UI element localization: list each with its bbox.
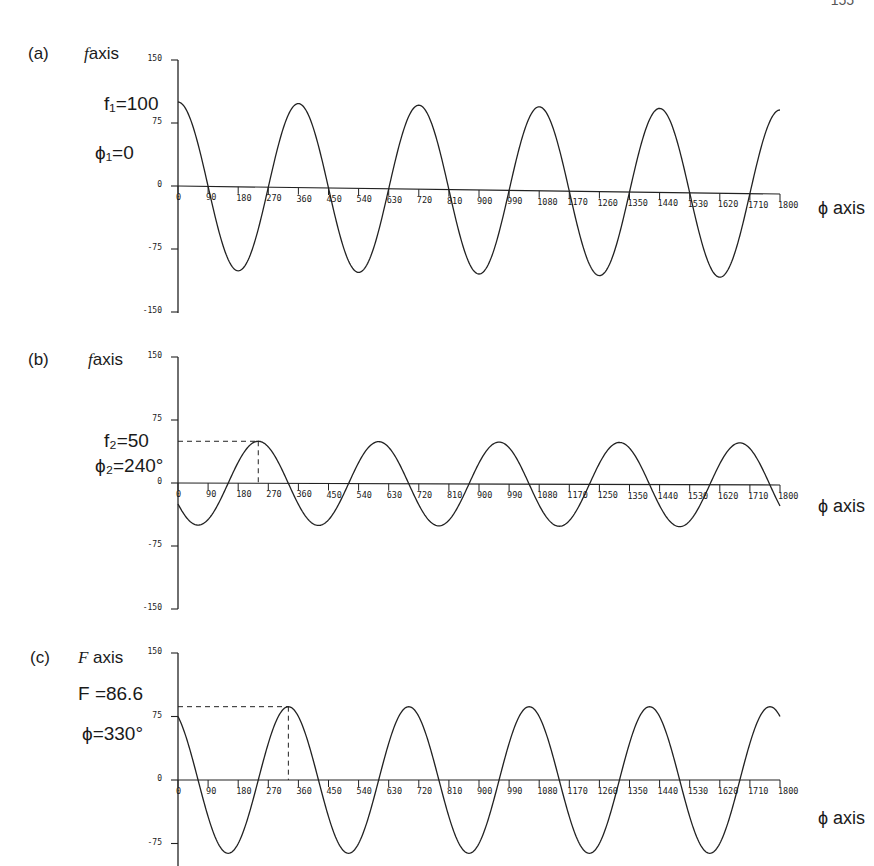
y-tick-label: 150 — [132, 54, 162, 63]
panel-c-amplitude-annotation: F =86.6 — [78, 683, 143, 705]
x-tick-label: 900 — [477, 490, 492, 500]
panel-b-amplitude-annotation: f₂=50 — [104, 430, 149, 452]
panel-a-label: (a) — [28, 44, 49, 64]
panel-b-label: (b) — [28, 350, 49, 370]
panel-a-x-axis-title: ϕ axis — [818, 198, 865, 219]
x-tick-label: 1710 — [748, 491, 768, 501]
y-tick-label: 75 — [132, 711, 162, 720]
x-tick-label: 1350 — [628, 786, 648, 796]
x-tick-label: 990 — [507, 786, 522, 796]
panel-c-axis-var: F — [78, 648, 88, 667]
x-tick-label: 630 — [387, 490, 402, 500]
y-tick-label: 150 — [132, 351, 162, 360]
x-tick-label: 1170 — [567, 786, 587, 796]
x-tick-label: 270 — [266, 193, 281, 203]
x-tick-label: 180 — [236, 489, 251, 499]
x-tick-label: 360 — [296, 786, 311, 796]
panel-a-axis-word: axis — [89, 44, 119, 63]
x-tick-label: 540 — [357, 194, 372, 204]
x-tick-label: 630 — [387, 195, 402, 205]
y-tick-label: 150 — [132, 647, 162, 656]
x-tick-label: 1080 — [537, 786, 557, 796]
x-tick-label: 0 — [176, 786, 181, 796]
panel-c-label: (c) — [30, 648, 50, 668]
x-tick-label: 1800 — [778, 786, 798, 796]
y-tick-label: -150 — [132, 603, 162, 612]
x-tick-label: 1260 — [597, 786, 617, 796]
panel-c-axis-word: axis — [88, 648, 123, 667]
panel-c-x-axis-title: ϕ axis — [818, 808, 865, 829]
x-tick-label: 270 — [266, 489, 281, 499]
x-tick-label: 1710 — [748, 786, 768, 796]
panel-a-amplitude-annotation: f₁=100 — [104, 93, 159, 115]
x-tick-label: 0 — [176, 489, 181, 499]
x-tick-label: 1530 — [688, 491, 708, 501]
y-tick-label: 0 — [132, 477, 162, 486]
x-tick-label: 720 — [417, 786, 432, 796]
x-tick-label: 1620 — [718, 199, 738, 209]
x-tick-label: 180 — [236, 786, 251, 796]
panel-b-axis-word: axis — [93, 350, 123, 369]
y-tick-label: 0 — [132, 774, 162, 783]
x-tick-label: 1710 — [748, 200, 768, 210]
y-tick-label: 75 — [132, 414, 162, 423]
x-tick-label: 900 — [477, 786, 492, 796]
x-tick-label: 1620 — [718, 491, 738, 501]
panel-b-x-axis-title: ϕ axis — [818, 496, 865, 517]
x-tick-label: 720 — [417, 195, 432, 205]
x-tick-label: 1440 — [658, 198, 678, 208]
x-tick-label: 270 — [266, 786, 281, 796]
x-tick-label: 90 — [206, 786, 216, 796]
y-tick-label: -75 — [132, 540, 162, 549]
x-tick-label: 1260 — [597, 198, 617, 208]
x-tick-label: 360 — [296, 489, 311, 499]
panel-a-y-axis-title: faxis — [84, 44, 119, 64]
panel-c-phase-annotation: ϕ=330° — [82, 723, 143, 745]
x-tick-label: 720 — [417, 490, 432, 500]
x-tick-label: 810 — [447, 490, 462, 500]
x-tick-label: 90 — [206, 489, 216, 499]
x-tick-label: 810 — [447, 786, 462, 796]
x-tick-label: 810 — [447, 196, 462, 206]
x-tick-label: 450 — [327, 786, 342, 796]
x-tick-label: 1350 — [628, 491, 648, 501]
x-tick-label: 1530 — [688, 199, 708, 209]
x-tick-label: 1530 — [688, 786, 708, 796]
x-tick-label: 1620 — [718, 786, 738, 796]
x-tick-label: 1080 — [537, 490, 557, 500]
x-tick-label: 0 — [176, 192, 181, 202]
x-tick-label: 1170 — [567, 197, 587, 207]
x-tick-label: 1440 — [658, 786, 678, 796]
x-tick-label: 1800 — [778, 200, 798, 210]
y-tick-label: -150 — [132, 306, 162, 315]
panel-b-y-axis-title: faxis — [88, 350, 123, 370]
x-tick-label: 1800 — [778, 491, 798, 501]
y-tick-label: -75 — [132, 838, 162, 847]
x-tick-label: 990 — [507, 196, 522, 206]
x-tick-label: 1080 — [537, 197, 557, 207]
x-tick-label: 900 — [477, 196, 492, 206]
x-tick-label: 360 — [296, 194, 311, 204]
x-tick-label: 630 — [387, 786, 402, 796]
x-tick-label: 450 — [327, 490, 342, 500]
y-tick-label: 0 — [132, 180, 162, 189]
panel-a-phase-annotation: ϕ₁=0 — [95, 142, 134, 164]
y-tick-label: -75 — [132, 243, 162, 252]
y-tick-label: 75 — [132, 117, 162, 126]
panel-c-y-axis-title: F axis — [78, 648, 123, 668]
x-tick-label: 450 — [327, 194, 342, 204]
x-tick-label: 1170 — [567, 490, 587, 500]
x-tick-label: 90 — [206, 192, 216, 202]
x-tick-label: 990 — [507, 490, 522, 500]
x-tick-label: 1250 — [597, 490, 617, 500]
x-tick-label: 1350 — [628, 198, 648, 208]
panel-b-phase-annotation: ϕ₂=240° — [95, 455, 163, 477]
x-tick-label: 180 — [236, 193, 251, 203]
x-tick-label: 540 — [357, 786, 372, 796]
x-tick-label: 540 — [357, 490, 372, 500]
x-tick-label: 1440 — [658, 491, 678, 501]
